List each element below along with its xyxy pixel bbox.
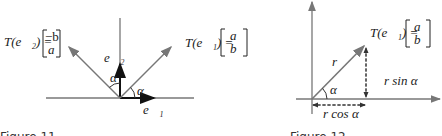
r-label: r bbox=[332, 54, 338, 69]
Te1-vector bbox=[312, 46, 364, 99]
matrix-bracket-right bbox=[243, 29, 247, 56]
alpha-label-2: α bbox=[110, 70, 118, 85]
alpha-label: α bbox=[330, 82, 338, 97]
r-sin-label: r sin α bbox=[384, 73, 419, 88]
e2-label: e⃗₂ bbox=[104, 50, 125, 65]
Te2-matrix-bottom: a bbox=[48, 42, 55, 57]
Te1-label: T(e⃗₁) = bbox=[185, 35, 233, 50]
figure-12-caption: Figure 12 bbox=[290, 130, 346, 136]
figures-canvas: α α e⃗₁ e⃗₂ T(e⃗₂) = −b a T(e⃗₁) = a b F… bbox=[0, 0, 442, 136]
e1-label: e⃗₁ bbox=[143, 102, 163, 117]
r-cos-label: r cos α bbox=[323, 106, 360, 121]
Te1-label: T(e⃗₁) = bbox=[370, 25, 418, 40]
figure-11-caption: Figure 11 bbox=[0, 130, 56, 136]
angle-arc-1 bbox=[131, 87, 135, 98]
matrix-bracket-right bbox=[426, 20, 430, 47]
figure-11: α α e⃗₁ e⃗₂ T(e⃗₂) = −b a T(e⃗₁) = a b F… bbox=[0, 18, 247, 136]
figure-12: r α r sin α r cos α T(e⃗₁) = a b Figure … bbox=[290, 2, 440, 136]
angle-arc bbox=[323, 88, 327, 99]
Te1-matrix-bottom: b bbox=[414, 32, 421, 47]
Te1-vector bbox=[120, 47, 171, 98]
alpha-label-1: α bbox=[137, 83, 145, 98]
Te1-matrix-bottom: b bbox=[230, 41, 237, 56]
